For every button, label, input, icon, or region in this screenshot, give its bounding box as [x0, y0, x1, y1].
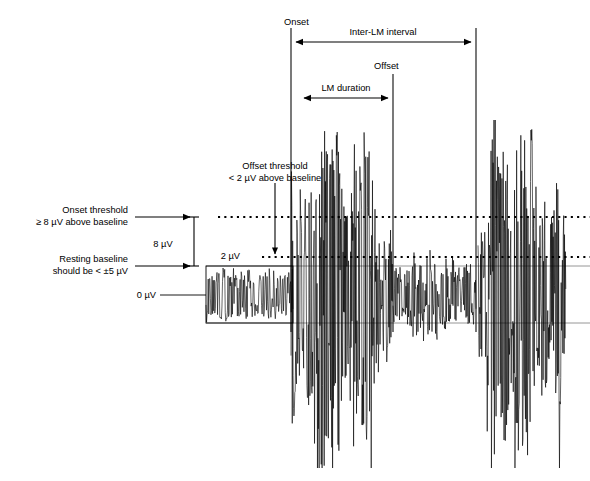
- onset-label: Onset: [284, 16, 309, 28]
- lm-duration-label: LM duration: [301, 82, 391, 94]
- trace-leg-movement-burst-2: [478, 120, 566, 468]
- scale-0uv-label: 0 µV: [100, 289, 156, 301]
- resting-baseline-label-line1: Resting baseline: [0, 253, 128, 265]
- inter-lm-interval-label: Inter-LM interval: [318, 26, 448, 38]
- offset-threshold-label-line1: Offset threshold: [175, 160, 375, 172]
- scale-8uv-label: 8 µV: [135, 238, 191, 250]
- resting-baseline-label-line2: should be < ±5 µV: [0, 265, 128, 277]
- waveform-svg: [0, 0, 590, 481]
- offset-threshold-label-line2: < 2 µV above baseline: [175, 172, 375, 184]
- trace-sub-threshold-activity: [393, 250, 476, 341]
- trace-resting-baseline: [206, 268, 293, 322]
- onset-threshold-label-line2: ≥ 8 µV above baseline: [0, 216, 128, 228]
- onset-threshold-label-line1: Onset threshold: [0, 204, 128, 216]
- scale-2uv-label: 2 µV: [196, 250, 240, 262]
- figure-canvas: Onset Inter-LM interval Offset LM durati…: [0, 0, 590, 481]
- offset-label: Offset: [374, 60, 399, 72]
